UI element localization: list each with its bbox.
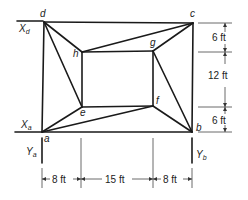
vertical-dimensions: 6 ft 12 ft 6 ft <box>198 23 232 132</box>
node-labels: d c h g e f b a <box>40 8 202 144</box>
node-h: h <box>73 48 79 59</box>
truss-diagram: Xd Xa Ya Yb d c h g e f b a 6 <box>0 0 248 200</box>
node-g: g <box>150 37 156 48</box>
horizontal-dimensions: 8 ft 15 ft 8 ft <box>42 138 192 188</box>
reaction-xa: Xa <box>15 119 41 132</box>
dim-v-2: 12 ft <box>208 70 228 81</box>
yb-label: Yb <box>196 149 207 161</box>
ya-label: Ya <box>26 146 37 158</box>
xa-label: Xa <box>20 119 32 131</box>
node-a: a <box>44 133 50 144</box>
dim-v-1: 6 ft <box>212 32 226 43</box>
node-e: e <box>80 107 86 118</box>
node-c: c <box>190 8 195 19</box>
dim-h-3: 8 ft <box>163 174 177 185</box>
dim-h-1: 8 ft <box>52 174 66 185</box>
node-b: b <box>196 122 202 133</box>
dim-v-3: 6 ft <box>212 115 226 126</box>
reaction-yb: Yb <box>192 138 207 163</box>
dim-h-2: 15 ft <box>105 174 125 185</box>
node-f: f <box>156 95 160 106</box>
reaction-xd: Xd <box>17 21 43 35</box>
reaction-ya: Ya <box>26 138 42 163</box>
inner-frame <box>82 51 153 107</box>
xd-label: Xd <box>18 23 31 35</box>
node-d: d <box>40 8 46 19</box>
diagonal-members <box>42 22 193 132</box>
